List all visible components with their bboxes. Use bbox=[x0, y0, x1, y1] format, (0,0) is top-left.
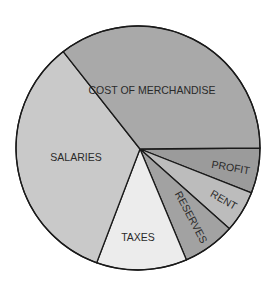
label-cost-of-merchandise: COST OF MERCHANDISE bbox=[89, 84, 216, 96]
label-taxes: TAXES bbox=[121, 231, 155, 243]
pie-chart: COST OF MERCHANDISE SALARIES TAXES RESER… bbox=[0, 0, 274, 294]
label-salaries: SALARIES bbox=[50, 151, 101, 163]
